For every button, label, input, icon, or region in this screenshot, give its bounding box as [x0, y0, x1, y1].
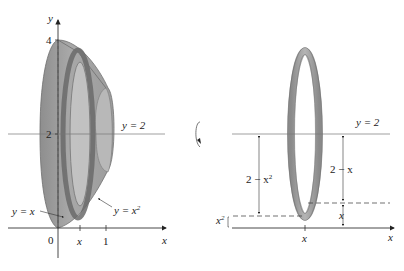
- right-x-tick: x: [301, 232, 307, 244]
- x-axis-label: x: [161, 234, 167, 246]
- outer-radius-label: 2 − x2: [246, 173, 273, 185]
- x-tick-0: 0: [48, 234, 54, 246]
- left-line-label-y2: y = 2: [121, 119, 146, 131]
- pointer-y-equals-x-squared: [99, 199, 112, 207]
- right-x-axis-label: x: [387, 231, 393, 243]
- inner-radius-label: 2 − x: [330, 163, 353, 175]
- diagram-canvas: y 4 2 0 x 1 x y = 2 y = x y = x2 y = 2 2…: [0, 0, 404, 271]
- curve-label-y-equals-x: y = x: [11, 205, 35, 217]
- right-line-label-y2: y = 2: [355, 116, 380, 128]
- rotate-around-axis-icon: [196, 122, 201, 147]
- bracket-x-squared: [228, 217, 229, 227]
- x-tick-x: x: [76, 235, 82, 247]
- gap-x-squared-label: x2: [215, 214, 225, 226]
- y-tick-2: 2: [46, 128, 52, 140]
- y-axis-label: y: [47, 12, 53, 24]
- y-tick-4: 4: [46, 34, 52, 46]
- gap-x-label: x: [338, 209, 344, 221]
- x-tick-1: 1: [103, 235, 109, 247]
- curve-label-y-equals-x-squared: y = x2: [113, 204, 141, 216]
- washer-method-diagram: y 4 2 0 x 1 x y = 2 y = x y = x2 y = 2 2…: [0, 0, 404, 271]
